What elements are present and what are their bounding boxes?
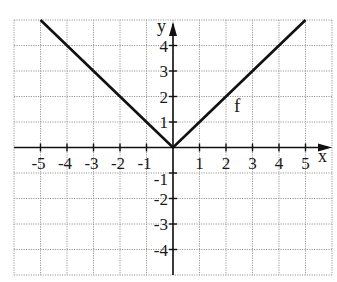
y-tick-label: -2	[154, 190, 168, 209]
x-tick-label: -1	[137, 154, 151, 173]
y-tick-label: 4	[160, 37, 169, 56]
x-tick-label: -3	[84, 154, 98, 173]
x-tick-label: 5	[301, 154, 310, 173]
function-f-label: f	[234, 95, 241, 116]
x-tick-label: 1	[195, 154, 204, 173]
x-tick-label: 3	[248, 154, 257, 173]
x-tick-labels: -5-4-3-2-112345	[31, 154, 309, 173]
x-tick-label: 4	[275, 154, 284, 173]
y-tick-label: -1	[154, 170, 168, 189]
y-tick-label: -4	[154, 241, 169, 260]
x-axis-label: x	[318, 146, 327, 166]
x-tick-label: -2	[111, 154, 125, 173]
y-axis-label: y	[157, 16, 166, 36]
y-tick-label: 3	[160, 62, 169, 81]
x-tick-label: 2	[222, 154, 231, 173]
x-tick-label: -4	[58, 154, 73, 173]
function-plot: -5-4-3-2-112345 4321-1-2-3-4 x y f	[0, 0, 337, 282]
y-tick-label: 2	[160, 88, 169, 107]
x-tick-label: -5	[31, 154, 45, 173]
y-tick-label: 1	[160, 113, 169, 132]
y-axis-arrow-icon	[169, 22, 177, 36]
y-tick-label: -3	[154, 215, 168, 234]
